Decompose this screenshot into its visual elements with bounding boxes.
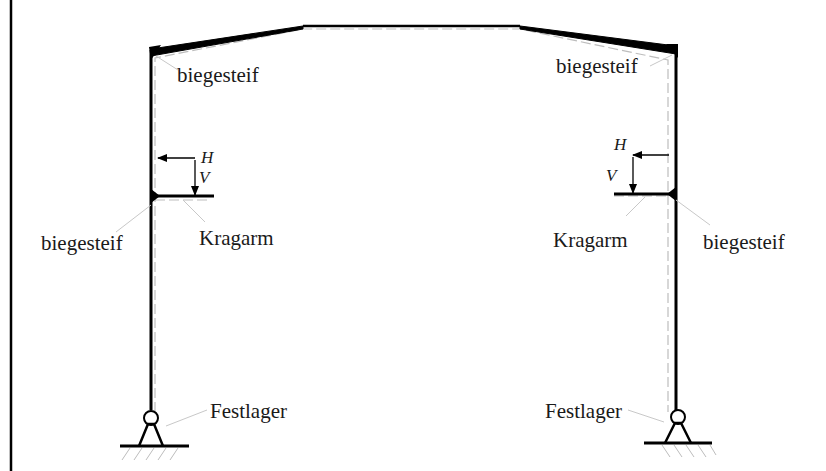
left-v-label: V (199, 168, 212, 187)
right-rafter (520, 26, 676, 54)
left-h-label: H (200, 148, 215, 167)
right-h-label: H (613, 135, 628, 154)
left-ground-hatch-icon (122, 448, 178, 460)
label-right-cantilever: Kragarm (553, 228, 628, 252)
right-fixed-support (644, 410, 716, 457)
frame-diagram: H V H V (0, 0, 826, 471)
label-left-bracket-rigid: biegesteif (41, 231, 123, 255)
label-top-left-rigid: biegesteif (177, 63, 259, 87)
label-left-cantilever: Kragarm (199, 226, 274, 250)
right-v-label: V (606, 166, 619, 185)
label-right-bracket-rigid: biegesteif (703, 230, 785, 254)
left-fixed-support (120, 411, 189, 460)
left-loads (158, 158, 195, 195)
label-top-right-rigid: biegesteif (556, 54, 638, 78)
label-right-support: Festlager (545, 399, 622, 423)
right-ground-hatch-icon (662, 445, 716, 457)
right-loads (633, 155, 669, 193)
label-left-support: Festlager (210, 399, 287, 423)
left-rafter (151, 26, 303, 56)
